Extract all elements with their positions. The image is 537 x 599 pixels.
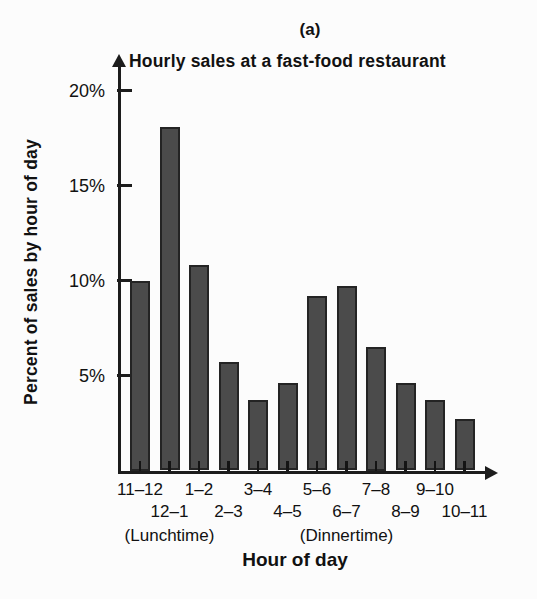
bar-7–8 [366,347,386,471]
bar-12–1 [160,127,180,471]
category-tick-mark [139,461,142,471]
bar-11–12 [130,281,150,471]
x-axis-line [118,471,488,474]
category-tick-mark [316,461,319,471]
category-tick-mark [404,461,407,471]
y-tick-mark [117,184,132,187]
chart-title: Hourly sales at a fast-food restaurant [129,51,446,72]
category-tick-mark [168,461,171,471]
bar-chart-figure: (a) Hourly sales at a fast-food restaura… [0,0,537,599]
y-axis-arrow-icon [112,54,126,67]
category-tick-mark [463,461,466,471]
bar-4–5 [278,383,298,470]
bar-1–2 [189,265,209,470]
category-tick-mark [227,461,230,471]
category-tick-mark [345,461,348,471]
x-axis-title: Hour of day [105,549,485,571]
bar-2–3 [219,362,239,470]
x-tick-label: 9–10 [400,480,470,500]
y-tick-mark [117,89,132,92]
category-tick-mark [375,461,378,471]
y-axis-title: Percent of sales by hour of day [21,139,42,405]
category-tick-mark [286,461,289,471]
category-tick-mark [257,461,260,471]
y-tick-label: 10% [44,271,105,291]
y-axis-line [118,64,121,473]
x-tick-label: 10–11 [430,502,500,522]
bar-6–7 [337,286,357,470]
bar-8–9 [396,383,416,470]
y-tick-label: 20% [44,81,105,101]
y-tick-label: 15% [44,176,105,196]
x-axis-arrow-icon [485,466,498,480]
category-tick-mark [434,461,437,471]
category-tick-mark [198,461,201,471]
annotation-label: (Dinnertime) [277,526,417,546]
annotation-label: (Lunchtime) [100,526,240,546]
y-tick-label: 5% [44,366,105,386]
figure-panel-label: (a) [270,20,350,40]
bar-5–6 [307,296,327,471]
